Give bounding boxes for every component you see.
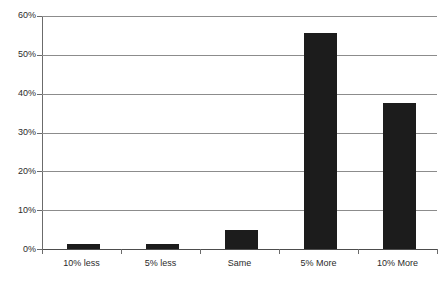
x-axis-tick-3 bbox=[279, 249, 280, 254]
x-axis-label-5-percent-less: 5% less bbox=[121, 258, 200, 268]
x-axis-tick-4 bbox=[358, 249, 359, 254]
x-axis-label-10-percent-more: 10% More bbox=[358, 258, 437, 268]
bar-10-percent-less bbox=[67, 244, 100, 249]
y-axis-label-3: 30% bbox=[0, 128, 36, 137]
bar-5-percent-more bbox=[304, 33, 337, 249]
bars-layer bbox=[42, 16, 437, 249]
y-axis-label-5: 50% bbox=[0, 50, 36, 59]
y-axis-label-4: 40% bbox=[0, 89, 36, 98]
x-axis-label-same: Same bbox=[200, 258, 279, 268]
y-axis-label-2: 20% bbox=[0, 167, 36, 176]
y-axis-label-6: 60% bbox=[0, 11, 36, 20]
x-axis-tick-2 bbox=[200, 249, 201, 254]
gridline-baseline-0 bbox=[42, 249, 437, 250]
x-axis-label-10-percent-less: 10% less bbox=[42, 258, 121, 268]
x-axis-label-5-percent-more: 5% More bbox=[279, 258, 358, 268]
plot-area bbox=[42, 16, 437, 249]
y-axis-label-0: 0% bbox=[0, 245, 36, 254]
x-axis-tick-1 bbox=[121, 249, 122, 254]
x-axis-tick-0 bbox=[42, 249, 43, 254]
bar-chart: 60% 50% 40% 30% 20% 10% 0% bbox=[0, 0, 447, 286]
bar-10-percent-more bbox=[383, 103, 416, 249]
y-axis-label-1: 10% bbox=[0, 206, 36, 215]
bar-5-percent-less bbox=[146, 244, 179, 249]
x-axis-tick-5 bbox=[437, 249, 438, 254]
bar-same bbox=[225, 230, 258, 249]
